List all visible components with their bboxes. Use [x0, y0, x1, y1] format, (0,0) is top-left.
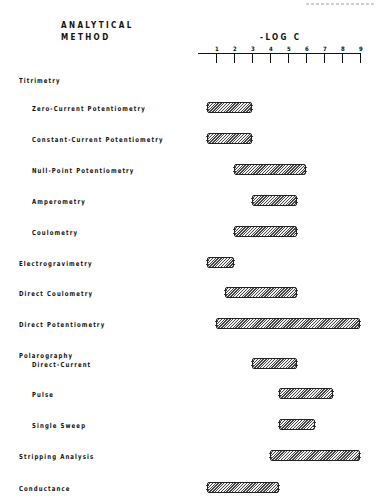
- axis-tick: [342, 53, 343, 63]
- method-label: Single Sweep: [32, 421, 86, 429]
- axis-tick: [252, 53, 253, 63]
- method-label: Zero-Current Potentiometry: [32, 104, 146, 112]
- range-bar: [234, 164, 306, 175]
- axis-tick-label: 9: [356, 45, 366, 52]
- range-bar: [225, 287, 297, 298]
- method-label: Electrogravimetry: [19, 259, 93, 267]
- axis-tick: [270, 53, 271, 63]
- range-bar: [252, 358, 297, 369]
- method-label: Direct Potentiometry: [19, 320, 105, 328]
- axis-tick: [216, 53, 217, 63]
- axis-tick-label: 2: [230, 45, 240, 52]
- range-bar: [207, 133, 252, 144]
- method-label: Constant-Current Potentiometry: [32, 135, 164, 143]
- method-header-line1: ANALYTICAL: [61, 21, 134, 31]
- scan-artifact: [306, 3, 376, 5]
- method-label: Direct Coulometry: [19, 289, 93, 297]
- range-bar: [270, 450, 360, 461]
- method-label: Direct-Current: [32, 360, 91, 368]
- axis-tick-label: 8: [338, 45, 348, 52]
- axis-tick: [288, 53, 289, 63]
- axis-tick-label: 4: [266, 45, 276, 52]
- range-bar: [216, 318, 360, 329]
- axis-tick-label: 5: [284, 45, 294, 52]
- axis-tick: [306, 53, 307, 63]
- axis-tick-label: 6: [302, 45, 312, 52]
- method-header-line2: METHOD: [61, 33, 111, 43]
- range-bar: [207, 257, 234, 268]
- range-bar: [252, 195, 297, 206]
- axis-tick-label: 1: [212, 45, 222, 52]
- method-label: Null-Point Potentiometry: [32, 166, 134, 174]
- range-bar: [207, 102, 252, 113]
- method-label: Amperometry: [32, 197, 86, 205]
- axis-tick: [234, 53, 235, 63]
- axis-title: -LOG C: [260, 33, 302, 43]
- axis-tick: [324, 53, 325, 63]
- range-bar: [234, 226, 297, 237]
- method-label: Polarography: [19, 351, 73, 359]
- method-label: Coulometry: [32, 228, 78, 236]
- method-label: Conductance: [19, 484, 70, 492]
- axis-tick-label: 3: [248, 45, 258, 52]
- axis-tick: [360, 53, 361, 63]
- axis-line: [198, 53, 361, 54]
- method-label: Stripping Analysis: [19, 452, 94, 460]
- axis-tick-label: 7: [320, 45, 330, 52]
- range-bar: [279, 419, 315, 430]
- method-label: Pulse: [32, 390, 54, 398]
- method-label: Titrimetry: [19, 76, 61, 84]
- range-bar: [207, 482, 279, 493]
- range-bar: [279, 388, 333, 399]
